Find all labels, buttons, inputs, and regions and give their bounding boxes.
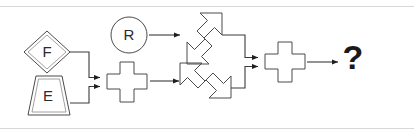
- question-mark-icon: ?: [343, 38, 364, 76]
- edge-e-to-cross1: [70, 87, 100, 104]
- node-cross-1[interactable]: [107, 62, 147, 102]
- node-f-label: F: [42, 43, 51, 60]
- node-r[interactable]: R: [111, 17, 147, 53]
- node-e[interactable]: E: [28, 76, 70, 115]
- double-headed-diagonal-arrow-nw-se-icon: [180, 63, 231, 98]
- node-question: ?: [343, 38, 364, 76]
- edge-arrow-down-to-cross2: [231, 67, 258, 89]
- edge-arrow-up-to-cross2: [222, 35, 258, 58]
- node-f[interactable]: F: [24, 31, 70, 73]
- diagram-page: F E R ?: [0, 0, 414, 136]
- node-e-label: E: [43, 87, 53, 104]
- cross-shape-icon: [265, 42, 305, 82]
- node-arrow-down[interactable]: [180, 63, 231, 98]
- cross-shape-icon: [107, 62, 147, 102]
- node-arrow-up[interactable]: [187, 13, 222, 64]
- node-r-label: R: [124, 26, 135, 43]
- node-cross-2[interactable]: [265, 42, 305, 82]
- diagram-canvas: F E R ?: [0, 0, 414, 136]
- edge-f-to-cross1: [70, 52, 100, 78]
- double-headed-diagonal-arrow-ne-sw-icon: [187, 13, 222, 64]
